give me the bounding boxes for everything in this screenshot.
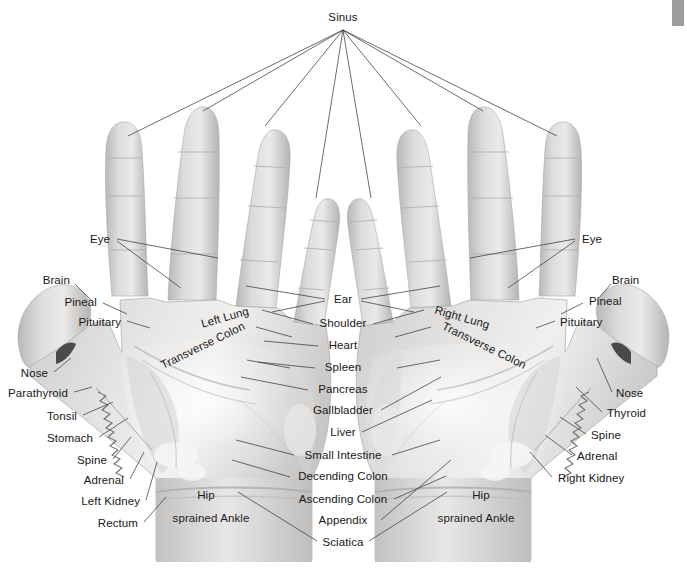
label-right-kidney: Right Kidney [558,473,624,485]
label-brain: Brain [612,275,639,287]
label-sinus: Sinus [328,12,357,24]
label-tonsil: Tonsil [47,411,77,423]
sinus-leader-2 [265,30,343,126]
label-pituitary: Pituitary [560,317,602,329]
sinus-leader-6 [343,30,483,111]
sinus-leader-1 [203,30,343,111]
label-nose: Nose [616,388,643,400]
sinus-leader-0 [128,30,343,136]
label-parathyroid: Parathyroid [8,388,68,400]
label-onhand-sprained-ankle: sprained Ankle [438,513,515,525]
label-stomach: Stomach [47,433,93,445]
sinus-leader-3 [316,30,343,198]
label-brain: Brain [43,275,70,287]
label-sciatica: Sciatica [322,537,363,549]
label-ascending-colon: Ascending Colon [299,494,387,506]
label-appendix: Appendix [319,515,368,527]
label-pituitary: Pituitary [79,317,121,329]
label-left-kidney: Left Kidney [81,496,140,508]
label-eye: Eye [582,234,602,246]
label-pineal: Pineal [589,296,622,308]
corner-artifact [672,0,684,26]
sinus-leader-5 [343,30,421,126]
label-rectum: Rectum [98,518,138,530]
sinus-leader-4 [343,30,371,198]
label-spine: Spine [77,455,107,467]
label-gallbladder: Gallbladder [313,405,373,417]
reflexology-chart: Sinus EyeBrainPinealPituitaryNoseParathy… [0,0,687,569]
label-spine: Spine [591,430,621,442]
label-pancreas: Pancreas [318,384,367,396]
label-thyroid: Thyroid [607,408,646,420]
label-onhand-hip: Hip [472,490,490,502]
label-onhand-hip: Hip [197,490,215,502]
left-hand-image [18,107,340,562]
label-spleen: Spleen [325,362,361,374]
label-adrenal: Adrenal [84,475,124,487]
label-onhand-sprained-ankle: sprained Ankle [173,513,250,525]
right-hand-image [347,107,669,562]
sinus-leader-7 [343,30,557,136]
label-pineal: Pineal [64,297,97,309]
label-nose: Nose [21,368,48,380]
label-ear: Ear [334,294,352,306]
label-heart: Heart [329,340,358,352]
label-small-intestine: Small Intestine [305,450,382,462]
label-liver: Liver [330,427,355,439]
label-eye: Eye [90,234,110,246]
label-adrenal: Adrenal [577,451,617,463]
label-decending-colon: Decending Colon [298,471,388,483]
label-shoulder: Shoulder [320,318,367,330]
